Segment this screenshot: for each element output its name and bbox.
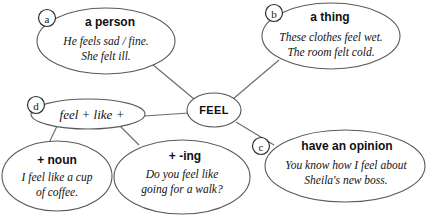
connector-feel-to-d [144, 113, 189, 116]
connector-feel-to-a [152, 64, 194, 99]
node-have-an-opinion: have an opinion You know how I feel abou… [265, 130, 425, 202]
connector-feel-to-b [233, 60, 279, 99]
connector-d-to-ing [120, 126, 139, 145]
node-a-thing-heading: a thing [310, 10, 349, 24]
node-feel-like-heading: feel + like + [60, 107, 125, 122]
node-plus-ing: + -ing Do you feel like going for a walk… [114, 140, 250, 214]
marker-b: b [266, 5, 283, 22]
node-a-person: a person He feels sad / fine. She felt i… [37, 8, 175, 74]
node-plus-noun-example-2: of coffee. [36, 186, 78, 199]
node-plus-noun-heading: + noun [37, 153, 77, 167]
node-a-thing-example-1: These clothes feel wet. [279, 31, 382, 44]
node-plus-ing-heading: + -ing [169, 149, 201, 163]
marker-c-text: c [259, 141, 264, 153]
feel-word-map-diagram: a person He feels sad / fine. She felt i… [0, 0, 434, 219]
marker-b-text: b [271, 8, 277, 20]
marker-d-text: d [33, 100, 39, 112]
marker-c: c [253, 138, 270, 155]
node-a-thing-example-2: The room felt cold. [287, 46, 374, 59]
node-a-person-heading: a person [85, 15, 135, 29]
node-feel-like: feel + like + [31, 99, 145, 129]
node-feel-center-label: FEEL [199, 104, 229, 116]
node-have-an-opinion-example-2: Sheila's new boss. [304, 174, 387, 186]
marker-a-text: a [45, 13, 50, 25]
node-plus-ing-example-2: going for a walk? [141, 183, 223, 196]
node-plus-noun-example-1: I feel like a cup [21, 171, 93, 184]
node-have-an-opinion-heading: have an opinion [301, 139, 392, 153]
node-have-an-opinion-example-1: You know how I feel about [285, 159, 407, 172]
marker-d: d [28, 97, 45, 114]
node-a-person-example-1: He feels sad / fine. [62, 35, 148, 48]
marker-a: a [39, 10, 56, 27]
node-plus-noun: + noun I feel like a cup of coffee. [2, 141, 112, 211]
node-feel-center: FEEL [187, 93, 241, 127]
node-plus-ing-example-1: Do you feel like [145, 168, 218, 181]
node-a-person-example-2: She felt ill. [81, 50, 131, 63]
